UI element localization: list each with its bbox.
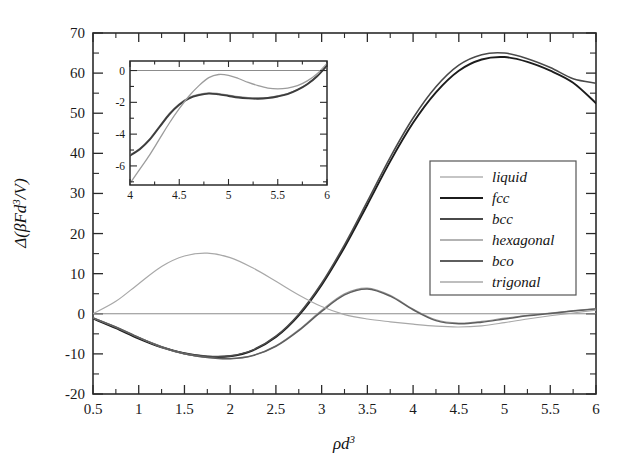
y-tick-label: -20 (65, 386, 85, 402)
y-tick-label: 10 (70, 266, 85, 282)
legend: liquidfccbcchexagonalbcotrigonal (430, 161, 576, 295)
legend-label-trigonal: trigonal (492, 274, 540, 290)
y-tick-label: -10 (65, 346, 85, 362)
x-axis-label: ρd3 (332, 433, 356, 453)
inset-y-tick-label: -2 (115, 96, 125, 108)
y-tick-label: 40 (70, 145, 85, 161)
y-tick-label: 60 (70, 65, 85, 81)
x-tick-label: 2 (226, 401, 234, 417)
legend-label-bco: bco (492, 253, 514, 269)
inset-y-tick-label: 0 (119, 65, 125, 77)
x-tick-label: 4 (409, 401, 417, 417)
inset-y-tick-label: -4 (115, 128, 125, 140)
inset-x-tick-label: 5 (226, 189, 232, 201)
x-tick-label: 3 (318, 401, 326, 417)
figure-container: 0.511.522.533.544.555.56706050403020100-… (0, 0, 629, 469)
y-tick-label: 30 (70, 185, 85, 201)
inset-x-tick-label: 4 (127, 189, 133, 201)
x-tick-label: 0.5 (84, 401, 103, 417)
legend-label-hexagonal: hexagonal (492, 232, 554, 248)
inset-x-tick-label: 5.5 (271, 189, 286, 201)
inset-x-tick-label: 6 (324, 189, 330, 201)
x-tick-label: 2.5 (267, 401, 286, 417)
y-tick-label: 20 (70, 226, 85, 242)
x-tick-label: 6 (592, 401, 600, 417)
legend-label-bcc: bcc (492, 211, 513, 227)
x-tick-label: 3.5 (358, 401, 377, 417)
line-chart: 0.511.522.533.544.555.56706050403020100-… (0, 0, 629, 469)
inset-y-tick-label: -6 (115, 160, 125, 172)
legend-label-liquid: liquid (492, 169, 528, 185)
inset-x-tick-label: 4.5 (172, 189, 187, 201)
y-tick-label: 0 (78, 306, 86, 322)
y-tick-label: 70 (70, 25, 85, 41)
x-tick-label: 1.5 (175, 401, 194, 417)
x-tick-label: 5.5 (541, 401, 560, 417)
legend-label-fcc: fcc (492, 190, 510, 206)
inset-frame (130, 61, 327, 185)
x-tick-label: 1 (135, 401, 143, 417)
x-tick-label: 5 (501, 401, 509, 417)
x-tick-label: 4.5 (449, 401, 468, 417)
y-axis-label: Δ(βFd3/V) (10, 178, 30, 249)
inset-axes (130, 61, 327, 185)
y-tick-label: 50 (70, 105, 85, 121)
